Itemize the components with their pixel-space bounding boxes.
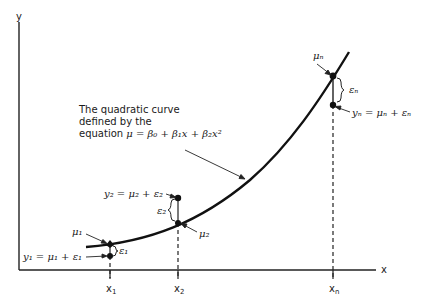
xn-label: xn <box>329 283 339 298</box>
arrowhead-icon <box>181 224 187 229</box>
caption-equation: μ = β₀ + β₁x + β₂x² <box>126 128 221 139</box>
mu1-point <box>106 240 114 248</box>
curve-caption: The quadratic curve defined by the equat… <box>79 104 222 140</box>
quadratic-curve <box>86 52 349 247</box>
mu1-label: μ₁ <box>72 226 83 237</box>
y-axis-label: y <box>16 11 22 22</box>
eps2-brace <box>168 199 175 221</box>
arrowhead-icon <box>335 106 341 110</box>
yn-label: yₙ = μₙ + εₙ <box>352 107 411 118</box>
caption-line-2: defined by the <box>79 116 222 128</box>
eps1-brace <box>113 246 118 256</box>
caption-line-3: equation μ = β₀ + β₁x + β₂x² <box>79 128 222 140</box>
arrowhead-icon <box>239 175 245 180</box>
x2-label: x2 <box>174 283 184 298</box>
cropped-heading <box>25 0 215 2</box>
mu2-label: μ₂ <box>199 228 210 239</box>
yn-point <box>330 102 336 108</box>
epsn-label: εₙ <box>349 84 358 95</box>
eps2-label: ε₂ <box>157 205 166 216</box>
caption-pointer <box>185 150 243 178</box>
y2-label: y₂ = μ₂ + ε₂ <box>104 188 163 199</box>
x-axis-label: x <box>381 264 387 275</box>
epsn-brace <box>337 78 344 102</box>
eps1-label: ε₁ <box>119 245 128 256</box>
mun-label: μₙ <box>313 50 324 61</box>
caption-line-1: The quadratic curve <box>79 104 222 116</box>
arrowhead-icon <box>101 240 107 244</box>
y1-label: y₁ = μ₁ + ε₁ <box>23 251 82 262</box>
arrowhead-icon <box>170 194 176 198</box>
y2-point <box>175 195 181 201</box>
arrowhead-icon <box>102 254 107 258</box>
x1-label: x1 <box>106 283 116 298</box>
